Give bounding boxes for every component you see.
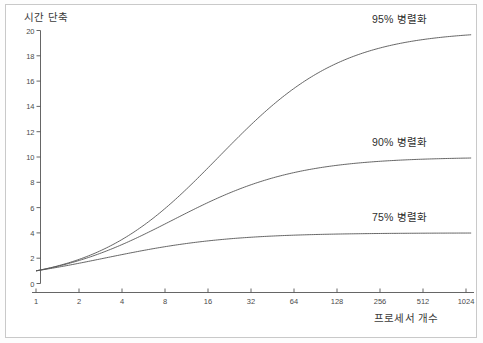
series-label-95: 95% 병렬화	[372, 11, 427, 26]
series-label-9: 90% 병렬화	[372, 134, 427, 149]
y-tick-label: 12	[13, 127, 35, 136]
y-axis-title: 시간 단축	[24, 9, 68, 24]
series-label-75: 75% 병렬화	[372, 209, 427, 224]
y-tick-label: 20	[13, 26, 35, 35]
y-tick-label: 10	[13, 153, 35, 162]
y-tick-label: 14	[13, 102, 35, 111]
series-curve	[36, 35, 471, 271]
y-tick-label: 4	[13, 228, 35, 237]
y-tick-label: 6	[13, 203, 35, 212]
chart-figure: 시간 단축 프로세서 개수 02468101214161820 12481632…	[0, 0, 483, 343]
plot-area	[0, 0, 483, 343]
axes-group	[32, 31, 474, 293]
x-tick-label: 64	[290, 297, 298, 306]
x-tick-label: 8	[163, 297, 167, 306]
x-tick-label: 32	[247, 297, 255, 306]
x-tick-label: 4	[120, 297, 124, 306]
x-tick-label: 512	[417, 297, 430, 306]
y-tick-label: 16	[13, 77, 35, 86]
x-tick-label: 1	[34, 297, 38, 306]
series-curve	[36, 233, 471, 271]
y-tick-label: 2	[13, 254, 35, 263]
curves-group	[36, 35, 471, 271]
x-axis-title: 프로세서 개수	[374, 310, 438, 325]
y-tick-label: 8	[13, 178, 35, 187]
y-tick-label: 0	[13, 279, 35, 288]
x-tick-label: 2	[77, 297, 81, 306]
x-tick-label: 256	[374, 297, 387, 306]
y-tick-label: 18	[13, 51, 35, 60]
x-tick-label: 16	[204, 297, 212, 306]
x-tick-label: 128	[331, 297, 344, 306]
x-tick-label: 1024	[458, 297, 475, 306]
